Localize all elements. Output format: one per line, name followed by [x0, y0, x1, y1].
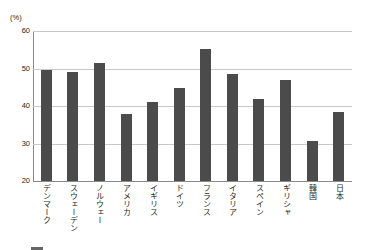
gridline-20 — [33, 181, 352, 182]
x-axis-label: スウェーデン — [68, 184, 77, 232]
bar — [41, 70, 52, 181]
bar — [67, 72, 78, 181]
x-axis-label: 韓国 — [308, 184, 317, 200]
x-axis-label: ノルウェー — [95, 184, 104, 224]
bar — [253, 99, 264, 181]
bar — [174, 88, 185, 181]
x-axis-label: イタリア — [228, 184, 237, 216]
x-axis-label: デンマーク — [42, 184, 51, 224]
x-axis-label: ギリシャ — [281, 184, 290, 216]
bar — [307, 141, 318, 182]
bar — [200, 49, 211, 181]
bar — [333, 112, 344, 181]
y-tick-label-30: 30 — [4, 140, 30, 148]
bar — [147, 102, 158, 181]
footer-caption-strip — [0, 246, 370, 250]
y-tick-label-50: 50 — [4, 65, 30, 73]
bar — [280, 80, 291, 181]
bar — [227, 74, 238, 181]
y-tick-label-60: 60 — [4, 27, 30, 35]
x-axis-label: イギリス — [148, 184, 157, 216]
x-axis-labels: デンマークスウェーデンノルウェーアメリカイギリスドイツフランスイタリアスペインギ… — [33, 184, 352, 246]
bar-chart: (%) 2030405060 デンマークスウェーデンノルウェーアメリカイギリスド… — [0, 0, 370, 250]
bar — [94, 63, 105, 182]
x-axis-label: アメリカ — [122, 184, 131, 216]
x-axis-label: ドイツ — [175, 184, 184, 208]
x-axis-label: フランス — [201, 184, 210, 216]
y-tick-label-20: 20 — [4, 177, 30, 185]
bars-layer — [33, 31, 352, 181]
x-axis-label: スペイン — [254, 184, 263, 216]
x-axis-label: 日本 — [334, 184, 343, 200]
bar — [121, 114, 132, 181]
y-axis-ticks: 2030405060 — [0, 0, 30, 250]
y-tick-label-40: 40 — [4, 102, 30, 110]
